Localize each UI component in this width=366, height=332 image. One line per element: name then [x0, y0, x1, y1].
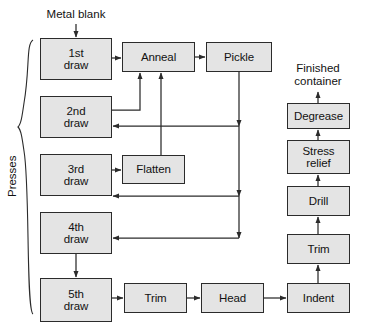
node-4th-draw[interactable]: 4th draw [40, 212, 112, 254]
node-2nd-draw[interactable]: 2nd draw [40, 96, 112, 138]
node-1st-draw[interactable]: 1st draw [40, 38, 112, 80]
node-trim-right[interactable]: Trim [287, 234, 350, 264]
node-drill[interactable]: Drill [287, 186, 350, 216]
caption-metal-blank: Metal blank [24, 8, 128, 21]
node-pickle[interactable]: Pickle [206, 42, 272, 72]
node-indent[interactable]: Indent [287, 283, 350, 313]
node-flatten[interactable]: Flatten [122, 155, 185, 184]
caption-finished-container: Finished container [278, 62, 358, 87]
node-5th-draw[interactable]: 5th draw [40, 278, 112, 322]
group-label-presses: Presses [6, 146, 19, 206]
edge-draw2-to-anneal [112, 73, 140, 110]
node-stress-relief[interactable]: Stress relief [287, 140, 350, 174]
node-3rd-draw[interactable]: 3rd draw [40, 154, 112, 196]
node-head[interactable]: Head [201, 283, 264, 313]
node-anneal[interactable]: Anneal [122, 42, 195, 72]
node-trim-bottom[interactable]: Trim [124, 283, 187, 313]
presses-brace [18, 40, 33, 314]
node-degrease[interactable]: Degrease [287, 103, 350, 129]
process-flow-diagram: Metal blank Finished container Presses 1… [0, 0, 366, 332]
